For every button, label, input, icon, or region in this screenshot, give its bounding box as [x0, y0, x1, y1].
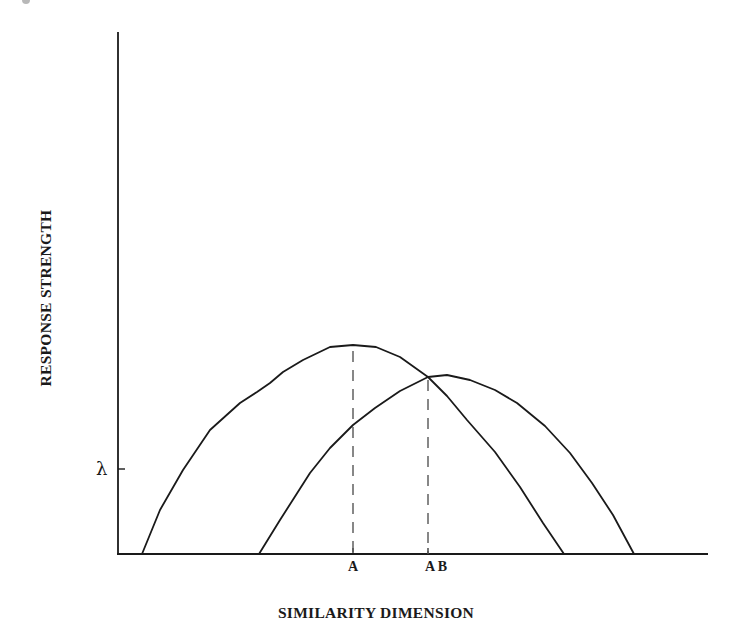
plot-canvas [0, 0, 735, 626]
tick-label-ab: A B [425, 559, 447, 575]
generalization-figure: RESPONSE STRENGTH SIMILARITY DIMENSION λ… [0, 0, 735, 626]
lambda-label: λ [96, 458, 107, 479]
y-axis-label: RESPONSE STRENGTH [37, 210, 55, 387]
curve-b [259, 375, 634, 554]
x-axis-label: SIMILARITY DIMENSION [278, 604, 474, 622]
tick-label-a: A [348, 559, 358, 575]
